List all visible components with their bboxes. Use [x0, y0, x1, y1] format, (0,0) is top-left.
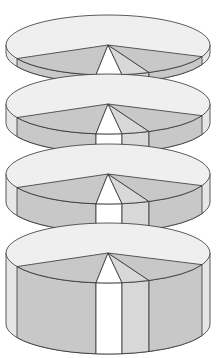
slice-side — [96, 283, 122, 354]
disk-4 — [6, 223, 210, 354]
stacked-pie-diagram — [0, 0, 222, 358]
disk-2 — [6, 74, 210, 153]
disk-3 — [6, 144, 210, 232]
disk-1 — [6, 15, 210, 83]
slice-side — [122, 280, 149, 353]
